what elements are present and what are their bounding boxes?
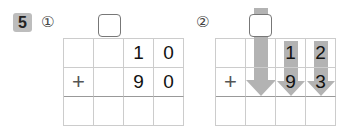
answer-cell[interactable]: [306, 97, 336, 126]
cell: [94, 68, 124, 97]
part-2-label: ②: [196, 13, 209, 31]
answer-cell[interactable]: [246, 97, 276, 126]
part-2-grid: 1 2 + 9 3: [215, 38, 336, 126]
cell: 0: [154, 39, 184, 68]
cell: [64, 39, 94, 68]
answer-cell[interactable]: [94, 97, 124, 126]
answer-cell[interactable]: [154, 97, 184, 126]
cell: 0: [154, 68, 184, 97]
part-1-grid: 1 0 + 9 0: [63, 38, 184, 126]
cell: [94, 39, 124, 68]
cell: 9: [124, 68, 154, 97]
answer-cell[interactable]: [216, 97, 246, 126]
cell: 3: [306, 68, 336, 97]
part-1-answer-box[interactable]: [98, 14, 121, 37]
cell: 1: [276, 39, 306, 68]
plus-sign: +: [216, 68, 246, 97]
answer-cell[interactable]: [64, 97, 94, 126]
answer-cell[interactable]: [276, 97, 306, 126]
part-1-label: ①: [41, 13, 54, 31]
cell: [246, 68, 276, 97]
cell: [246, 39, 276, 68]
cell: 9: [276, 68, 306, 97]
cell: [216, 39, 246, 68]
plus-sign: +: [64, 68, 94, 97]
problem-number-badge: 5: [13, 13, 32, 32]
cell: 1: [124, 39, 154, 68]
answer-cell[interactable]: [124, 97, 154, 126]
cell: 2: [306, 39, 336, 68]
part-2-answer-box[interactable]: [249, 14, 272, 37]
